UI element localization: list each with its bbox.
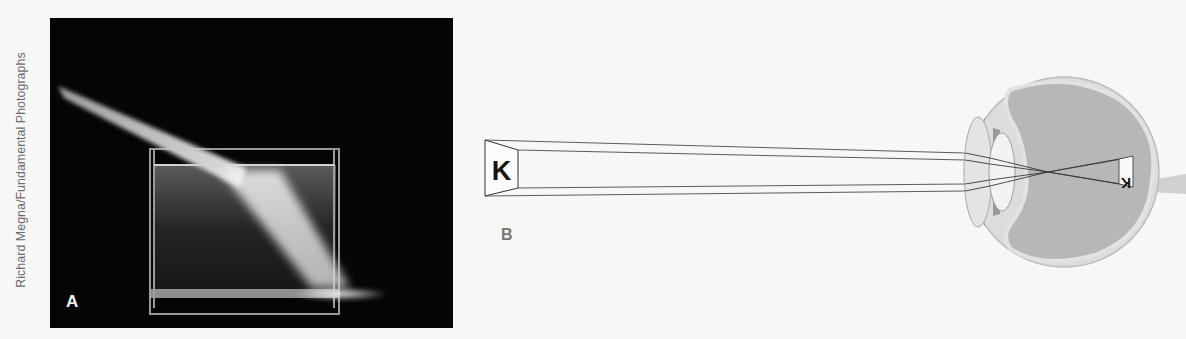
object-k-box: K bbox=[485, 140, 518, 196]
eye-cross-section-icon: K K bbox=[0, 0, 1186, 339]
panel-b-label: B bbox=[501, 226, 513, 244]
eyeball bbox=[964, 77, 1186, 267]
svg-text:K: K bbox=[1121, 175, 1131, 191]
svg-text:K: K bbox=[492, 156, 512, 186]
retina-image-k: K bbox=[1119, 156, 1133, 191]
